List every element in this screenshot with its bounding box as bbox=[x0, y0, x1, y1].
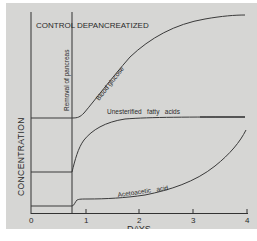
x-tick-label-1: 1 bbox=[84, 216, 89, 225]
removal-of-pancreas-label: Removal of pancreas bbox=[63, 49, 71, 111]
fatty-acids-label: Unesterified fatty acids bbox=[107, 108, 181, 116]
y-axis-title: CONCENTRATION bbox=[16, 117, 26, 196]
chart-svg: 0 1 2 3 4 DAYS CONCENTRATION CONTROL DEP… bbox=[6, 3, 257, 229]
x-tick-label-4: 4 bbox=[245, 216, 250, 225]
x-tick-label-0: 0 bbox=[29, 216, 34, 225]
acetoacetic-acid-label: Acetoacetic acid bbox=[117, 184, 169, 198]
control-label: CONTROL bbox=[36, 21, 76, 30]
chart-figure: 0 1 2 3 4 DAYS CONCENTRATION CONTROL DEP… bbox=[6, 3, 257, 229]
fatty-acids-curve bbox=[31, 117, 245, 172]
blood-glucose-label: Blood glucose bbox=[94, 65, 126, 102]
x-axis-title: DAYS bbox=[127, 224, 151, 229]
depancreatized-label: DEPANCREATIZED bbox=[77, 21, 149, 30]
x-tick-label-3: 3 bbox=[191, 216, 196, 225]
